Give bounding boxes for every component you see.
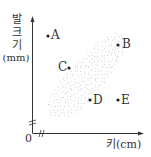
point-e-label: E <box>121 94 130 106</box>
x-axis-arrow-icon <box>138 132 144 136</box>
x-axis-label: 키(cm) <box>106 139 141 150</box>
origin-label: 0 <box>25 133 32 144</box>
y-label-line-2: 크 <box>2 27 32 38</box>
point-c-label: C <box>58 61 67 73</box>
point-a <box>46 34 49 37</box>
point-d-label: D <box>93 94 103 106</box>
scatter-diagram: 발 크 기 (mm) 0 키(cm) A B C D E <box>0 0 151 157</box>
axes <box>29 16 144 137</box>
y-label-line-4: (mm) <box>0 53 32 63</box>
point-a-label: A <box>51 29 60 41</box>
correlation-band <box>48 33 123 117</box>
point-c <box>67 66 70 69</box>
y-label-line-3: 기 <box>2 40 32 51</box>
y-label-line-1: 발 <box>2 14 32 25</box>
y-axis-label: 발 크 기 (mm) <box>2 14 32 63</box>
point-e <box>116 98 119 101</box>
point-d <box>88 98 91 101</box>
point-b-label: B <box>122 38 131 50</box>
point-b <box>116 43 119 46</box>
